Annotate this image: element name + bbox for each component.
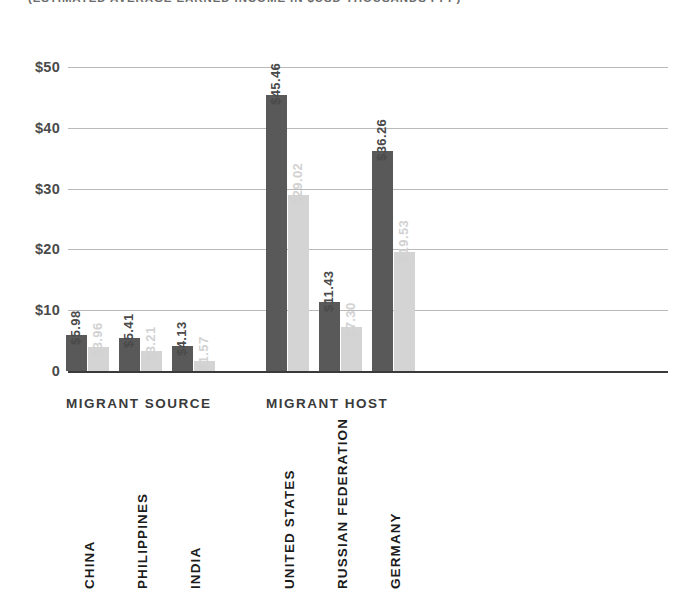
y-axis-tick-label: $40	[2, 120, 60, 136]
category-label-philippines: PHILIPPINES	[135, 493, 150, 589]
category-label-russian-federation: RUSSIAN FEDERATION	[335, 418, 350, 589]
x-axis-line	[68, 371, 668, 373]
y-axis-tick-label: $50	[2, 59, 60, 75]
group-label-migrant-source: MIGRANT SOURCE	[66, 396, 212, 411]
category-label-germany: GERMANY	[388, 512, 403, 589]
gridline-10	[68, 310, 668, 311]
value-label-china-dark: $5.98	[68, 310, 83, 345]
gridline-40	[68, 128, 668, 129]
value-label-germany-light: $19.53	[396, 220, 411, 262]
value-label-united-states-dark: $45.46	[268, 62, 283, 104]
y-axis-tick-label: $30	[2, 181, 60, 197]
value-label-united-states-light: $29.02	[290, 162, 305, 204]
bar-germany-dark	[372, 151, 393, 371]
value-label-philippines-dark: $5.41	[121, 314, 136, 349]
value-label-china-light: $3.96	[90, 322, 105, 357]
value-label-germany-dark: $36.26	[374, 118, 389, 160]
gridline-20	[68, 249, 668, 250]
y-axis-tick-label: $10	[2, 302, 60, 318]
bar-united-states-light	[288, 195, 309, 371]
bar-united-states-dark	[266, 95, 287, 371]
gridline-30	[68, 189, 668, 190]
category-label-india: INDIA	[188, 547, 203, 589]
value-label-russian-federation-light: $7.30	[343, 302, 358, 337]
value-label-india-dark: $4.13	[174, 321, 189, 356]
gridline-50	[68, 67, 668, 68]
y-axis-tick-label: 0	[2, 363, 60, 379]
bar-germany-light	[394, 252, 415, 371]
value-label-russian-federation-dark: $11.43	[321, 270, 336, 311]
category-label-united-states: UNITED STATES	[282, 469, 297, 589]
value-label-india-light: $1.57	[196, 337, 211, 372]
group-label-migrant-host: MIGRANT HOST	[266, 396, 388, 411]
value-label-philippines-light: $3.21	[143, 327, 158, 362]
category-label-china: CHINA	[82, 541, 97, 589]
y-axis-tick-label: $20	[2, 241, 60, 257]
bar-chart-plot-area: 0$10$20$30$40$50 $5.98$3.96$5.41$3.21$4.…	[0, 0, 674, 592]
